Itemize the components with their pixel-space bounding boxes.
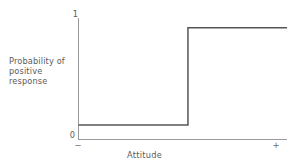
chart-figure: Probability of positive response 1 0 − +… [0,0,289,165]
data-series-step-curve [79,28,288,125]
plot-area [0,0,289,165]
